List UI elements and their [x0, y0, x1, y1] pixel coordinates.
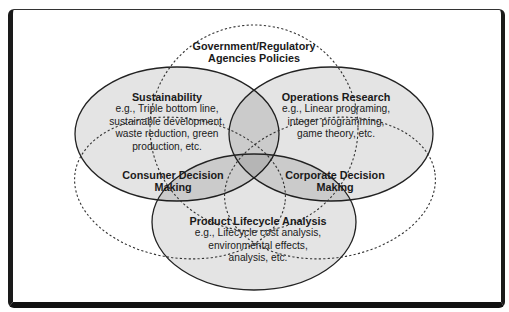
government-label: Government/Regulatory Agencies Policies	[193, 40, 316, 65]
operations-research-body-line: game theory, etc.	[282, 128, 391, 140]
corporate-decision-label: Corporate Decision Making	[285, 169, 385, 194]
operations-research-title: Operations Research	[282, 91, 391, 103]
sustainability-label: Sustainability e.g., Triple bottom line,…	[109, 91, 225, 153]
product-lifecycle-body-line: analysis, etc.	[189, 252, 326, 264]
sustainability-body-line: sustainable development,	[109, 116, 225, 128]
government-title-line-2: Agencies Policies	[193, 52, 316, 64]
consumer-decision-title-line-2: Making	[122, 181, 223, 193]
sustainability-title: Sustainability	[109, 91, 225, 103]
operations-research-body-line: e.g., Linear programing,	[282, 103, 391, 115]
sustainability-body-line: waste reduction, green	[109, 128, 225, 140]
product-lifecycle-body-line: e.g., Lifecycle cost analysis,	[189, 227, 326, 239]
consumer-decision-label: Consumer Decision Making	[122, 169, 223, 194]
operations-research-body-line: integer programming,	[282, 116, 391, 128]
product-lifecycle-title: Product Lifecycle Analysis	[189, 215, 326, 227]
product-lifecycle-body-line: environmental effects,	[189, 240, 326, 252]
corporate-decision-title-line-1: Corporate Decision	[285, 169, 385, 181]
sustainability-body-line: production, etc.	[109, 141, 225, 153]
consumer-decision-title-line-1: Consumer Decision	[122, 169, 223, 181]
product-lifecycle-label: Product Lifecycle Analysis e.g., Lifecyc…	[189, 215, 326, 265]
sustainability-body-line: e.g., Triple bottom line,	[109, 103, 225, 115]
government-title-line-1: Government/Regulatory	[193, 40, 316, 52]
corporate-decision-title-line-2: Making	[285, 181, 385, 193]
operations-research-label: Operations Research e.g., Linear program…	[282, 91, 391, 141]
